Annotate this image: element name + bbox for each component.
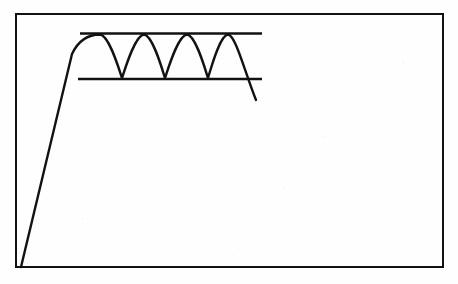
figure-caption-fragment [8, 272, 308, 284]
chart-canvas [0, 0, 458, 284]
chart-background [0, 0, 458, 284]
figure-page [0, 0, 458, 284]
